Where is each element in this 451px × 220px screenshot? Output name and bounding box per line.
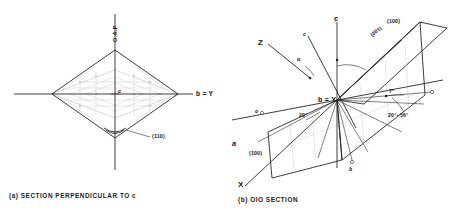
panel-b-axis-c-prime [308, 36, 356, 128]
panel-b-plane-100-right [337, 22, 425, 160]
panel-b-axis-a-label: a [232, 139, 236, 148]
panel-b-angle-left-label: 20° [299, 112, 307, 118]
panel-b-plane-100-lower-label: (100) [249, 150, 262, 156]
panel-b-c-tick [336, 59, 338, 61]
panel-a-oap-label: O.A.P [112, 25, 118, 42]
panel-b-marker-o-left [260, 111, 263, 114]
panel-b-axis-Z-label: Z [258, 38, 263, 47]
panel-b-marker-b-lower [350, 160, 353, 163]
panel-b-plane-100-label: (100) [387, 18, 400, 24]
panel-b-plane-shading [290, 44, 420, 170]
panel-a-leader-110 [126, 130, 150, 137]
panel-b-arc-range [392, 98, 404, 112]
panel-b-arc-7deg [337, 65, 366, 70]
panel-a-center-label: c [118, 88, 122, 94]
panel-b-axis-c-label: c [334, 14, 338, 23]
figure-canvas [0, 0, 451, 220]
panel-b-axis-Z [268, 44, 310, 78]
panel-a-caption: (a) SECTION PERPENDICULAR TO c [9, 192, 136, 199]
panel-b-axis-X-label: X [238, 180, 244, 189]
panel-b-axis-c-prime-label: c [303, 31, 306, 37]
panel-a-graphic [14, 14, 193, 170]
panel-b-angle-top-label: 7° [389, 88, 394, 94]
panel-b-origin-label: b = Y [318, 96, 336, 103]
panel-b-caption: (b) OIO SECTION [238, 196, 298, 203]
panel-b-angle-range-label: 20°- 56° [388, 112, 408, 118]
panel-b-marker-z [309, 77, 312, 80]
panel-b-graphic [232, 22, 447, 186]
panel-b-angle-alpha-label: α [297, 56, 300, 62]
panel-b-marker-o-left-label: o [255, 108, 258, 114]
panel-b-marker-arc [385, 95, 387, 97]
panel-a-plane-110-label: (110) [152, 133, 165, 139]
panel-b-marker-o-right [430, 90, 433, 93]
panel-a-b-axis-label: b = Y [196, 90, 213, 97]
panel-b-marker-b-lower-label: b [349, 166, 352, 172]
